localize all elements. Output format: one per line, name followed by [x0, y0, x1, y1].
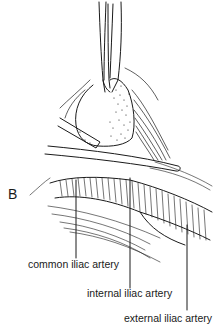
label-external-iliac-artery: external iliac artery: [124, 312, 212, 324]
retractor-blade: [45, 118, 180, 171]
label-common-iliac-artery: common iliac artery: [28, 258, 119, 270]
stippling: [79, 85, 130, 143]
label-internal-iliac-artery: internal iliac artery: [87, 287, 172, 299]
anatomical-illustration: [0, 0, 218, 330]
fascia-lines: [30, 162, 212, 262]
retractor-instrument: [99, 2, 121, 92]
panel-letter: B: [8, 186, 17, 202]
